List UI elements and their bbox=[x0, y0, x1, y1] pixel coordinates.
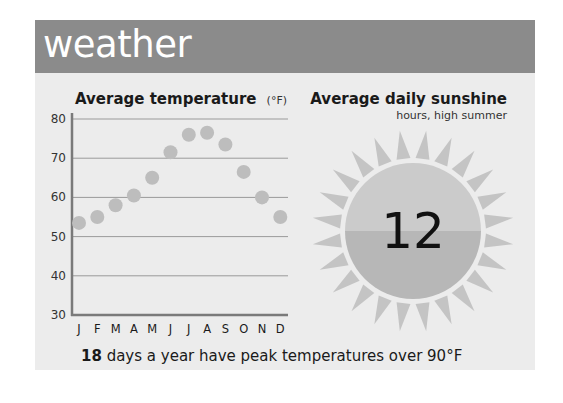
month-label: J bbox=[186, 322, 190, 336]
weather-panel: Average temperature (°F) 304050607080 JF… bbox=[35, 73, 535, 370]
data-point bbox=[255, 190, 269, 204]
sun-ray bbox=[352, 284, 375, 311]
y-tick-label: 80 bbox=[51, 112, 66, 126]
month-label: S bbox=[222, 322, 229, 336]
sun-ray bbox=[352, 151, 375, 178]
header-banner: weather bbox=[35, 20, 535, 73]
sunshine-title: Average daily sunshine bbox=[310, 90, 507, 108]
footer-text: days a year have peak temperatures over … bbox=[102, 347, 462, 365]
sunshine-subtitle: hours, high summer bbox=[396, 109, 507, 122]
month-label: A bbox=[203, 322, 211, 336]
y-axis-ticks: 304050607080 bbox=[51, 112, 66, 322]
sun-ray bbox=[397, 302, 411, 331]
page-title: weather bbox=[43, 20, 191, 70]
month-label: M bbox=[111, 322, 121, 336]
sun-ray bbox=[434, 295, 451, 324]
y-tick-label: 30 bbox=[51, 308, 66, 322]
data-point bbox=[90, 210, 104, 224]
sun-ray bbox=[313, 215, 342, 229]
data-point bbox=[72, 216, 86, 230]
sun-ray bbox=[466, 170, 493, 193]
month-label: J bbox=[76, 322, 80, 336]
sun-ray bbox=[320, 252, 349, 269]
y-tick-label: 40 bbox=[51, 269, 66, 283]
data-point bbox=[145, 171, 159, 185]
sun-ray bbox=[466, 270, 493, 293]
footer-highlight: 18 bbox=[81, 347, 102, 365]
sun-ray bbox=[452, 151, 475, 178]
data-points bbox=[72, 126, 287, 230]
month-label: D bbox=[276, 322, 285, 336]
sun-ray bbox=[434, 138, 451, 167]
x-axis-months: JFMAMJJASOND bbox=[76, 322, 285, 336]
data-point bbox=[200, 126, 214, 140]
sun-ray bbox=[477, 192, 506, 209]
data-point bbox=[164, 145, 178, 159]
sun-ray bbox=[374, 295, 391, 324]
sunshine-graphic: Average daily sunshine hours, high summe… bbox=[310, 90, 513, 331]
sun-ray bbox=[320, 192, 349, 209]
month-label: J bbox=[168, 322, 172, 336]
sun-ray bbox=[452, 284, 475, 311]
data-point bbox=[218, 137, 232, 151]
y-tick-label: 60 bbox=[51, 190, 66, 204]
y-tick-label: 50 bbox=[51, 230, 66, 244]
sun-ray bbox=[416, 131, 430, 160]
weather-graphics: Average temperature (°F) 304050607080 JF… bbox=[35, 73, 535, 370]
data-point bbox=[273, 210, 287, 224]
month-label: O bbox=[239, 322, 248, 336]
sun-ray bbox=[374, 138, 391, 167]
sun-ray bbox=[477, 252, 506, 269]
sun-ray bbox=[484, 215, 513, 229]
data-point bbox=[182, 128, 196, 142]
month-label: N bbox=[258, 322, 267, 336]
footer-note: 18 days a year have peak temperatures ov… bbox=[81, 347, 462, 365]
sun-ray bbox=[416, 302, 430, 331]
y-tick-label: 70 bbox=[51, 151, 66, 165]
month-label: M bbox=[147, 322, 157, 336]
sun-ray bbox=[397, 131, 411, 160]
sun-ray bbox=[333, 270, 360, 293]
sun-ray bbox=[333, 170, 360, 193]
temperature-chart-title: Average temperature (°F) bbox=[75, 89, 287, 108]
month-label: F bbox=[94, 322, 101, 336]
data-point bbox=[127, 188, 141, 202]
sun-ray bbox=[484, 234, 513, 248]
data-point bbox=[237, 165, 251, 179]
sun-ray bbox=[313, 234, 342, 248]
month-label: A bbox=[130, 322, 138, 336]
temperature-chart: Average temperature (°F) 304050607080 JF… bbox=[51, 89, 288, 336]
sunshine-hours-value: 12 bbox=[381, 202, 445, 260]
data-point bbox=[109, 198, 123, 212]
